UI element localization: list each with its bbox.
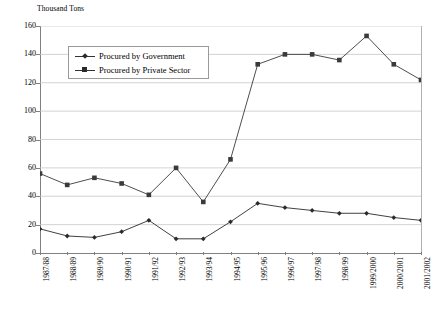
- x-axis-tick-mark: [367, 252, 368, 255]
- data-point-marker: [65, 234, 70, 239]
- x-axis-tick-label: 1988/89: [70, 257, 78, 282]
- x-axis-tick-label: 2001/2002: [424, 257, 432, 289]
- y-axis-tick-label: 20: [28, 221, 36, 229]
- y-axis-tick-label: 40: [28, 192, 36, 200]
- data-point-marker: [228, 157, 233, 162]
- x-axis-tick-mark: [94, 252, 95, 255]
- x-axis-tick-labels: 1987/881988/891989/901990/911991/921992/…: [40, 255, 422, 314]
- data-point-marker: [92, 235, 97, 240]
- legend-label-government: Procured by Government: [99, 52, 185, 61]
- data-point-marker: [310, 52, 315, 57]
- data-point-marker: [391, 215, 396, 220]
- x-axis-tick-label: 1992/93: [179, 257, 187, 282]
- x-axis-tick-mark: [176, 252, 177, 255]
- x-axis-tick-label: 1999/2000: [370, 257, 378, 289]
- x-axis-tick-label: 1996/97: [288, 257, 296, 282]
- x-axis-tick-label: 1994/95: [234, 257, 242, 282]
- x-axis-tick-mark: [149, 252, 150, 255]
- data-point-marker: [40, 226, 42, 231]
- legend-item-government: Procured by Government: [75, 49, 185, 63]
- x-axis-tick-mark: [394, 252, 395, 255]
- data-point-marker: [337, 58, 342, 63]
- x-axis-tick-mark: [421, 252, 422, 255]
- data-point-marker: [337, 211, 342, 216]
- x-axis-tick-label: 1990/91: [125, 257, 133, 282]
- legend-item-private-sector: Procured by Private Sector: [75, 63, 190, 77]
- x-axis-tick-mark: [258, 252, 259, 255]
- x-axis-tick-label: 1993/94: [206, 257, 214, 282]
- data-point-marker: [283, 205, 288, 210]
- x-axis-tick-mark: [122, 252, 123, 255]
- y-axis-tick-label: 80: [28, 136, 36, 144]
- x-axis-tick-mark: [339, 252, 340, 255]
- legend-marker-diamond-icon: [75, 52, 95, 61]
- data-point-marker: [255, 62, 260, 67]
- data-point-marker: [174, 166, 179, 171]
- data-point-marker: [65, 183, 70, 188]
- x-axis-tick-label: 1998/99: [342, 257, 350, 282]
- y-axis-tick-label: 120: [24, 79, 36, 87]
- x-axis-tick-mark: [231, 252, 232, 255]
- x-axis-tick-mark: [285, 252, 286, 255]
- data-point-marker: [201, 236, 206, 241]
- chart-legend: Procured by Government Procured by Priva…: [68, 46, 209, 79]
- y-axis-tick-labels: 020406080100120140160: [0, 0, 36, 314]
- data-point-marker: [201, 200, 206, 205]
- data-point-marker: [419, 78, 421, 83]
- x-axis-tick-mark: [40, 252, 41, 255]
- data-point-marker: [364, 211, 369, 216]
- y-axis-tick-label: 140: [24, 50, 36, 58]
- y-axis-tick-label: 100: [24, 107, 36, 115]
- legend-marker-square-icon: [75, 66, 95, 75]
- data-point-marker: [419, 218, 421, 223]
- data-point-marker: [364, 34, 369, 39]
- chart-container: Thousand Tons 020406080100120140160 1987…: [0, 0, 433, 314]
- data-point-marker: [310, 208, 315, 213]
- x-axis-tick-label: 2000/2001: [397, 257, 405, 289]
- data-point-marker: [40, 171, 42, 176]
- data-point-marker: [147, 193, 152, 198]
- x-axis-tick-label: 1991/92: [152, 257, 160, 282]
- data-point-marker: [119, 181, 124, 186]
- x-axis-tick-mark: [67, 252, 68, 255]
- data-point-marker: [283, 52, 288, 57]
- data-point-marker: [391, 62, 396, 67]
- plot-right-border: [421, 26, 422, 254]
- y-axis-tick-label: 60: [28, 164, 36, 172]
- legend-label-private-sector: Procured by Private Sector: [99, 66, 190, 75]
- data-point-marker: [92, 176, 97, 181]
- x-axis-tick-label: 1989/90: [97, 257, 105, 282]
- x-axis-tick-label: 1997/98: [315, 257, 323, 282]
- x-axis-tick-mark: [312, 252, 313, 255]
- y-axis-title: Thousand Tons: [37, 4, 84, 13]
- x-axis-tick-label: 1995/96: [261, 257, 269, 282]
- x-axis-tick-mark: [203, 252, 204, 255]
- y-axis-tick-label: 160: [24, 22, 36, 30]
- x-axis-tick-label: 1987/88: [43, 257, 51, 282]
- data-point-marker: [119, 229, 124, 234]
